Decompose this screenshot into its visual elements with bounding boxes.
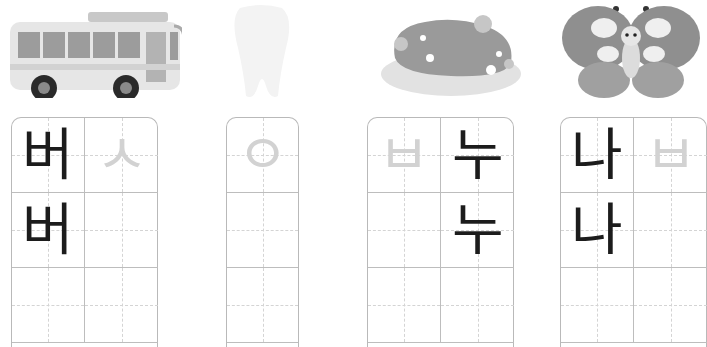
grid-cell[interactable] [368, 268, 441, 343]
syllable-trace: ㅂ [368, 118, 440, 192]
writing-grid-tooth: ㅇ [226, 117, 299, 347]
syllable-trace: ㅇ [227, 118, 298, 192]
grid-cell[interactable] [85, 193, 158, 268]
grid-cell[interactable]: ㅇ [227, 118, 298, 193]
grid-cell[interactable]: ㅂ [634, 118, 707, 193]
grid-cell[interactable] [227, 193, 298, 268]
writing-grid-island: ㅂ 누 누 [367, 117, 514, 347]
grid-cell[interactable]: 누 [441, 193, 514, 268]
bus-icon [4, 8, 182, 98]
grid-cell[interactable]: 버 [12, 193, 85, 268]
grid-cell[interactable]: 나 [561, 118, 634, 193]
grid-cell[interactable]: 나 [561, 193, 634, 268]
grid-cell[interactable]: 버 [12, 118, 85, 193]
butterfly-icon [560, 2, 702, 102]
grid-cell[interactable] [85, 268, 158, 343]
grid-cell[interactable]: ㅂ [368, 118, 441, 193]
island-icon [375, 8, 527, 100]
grid-cell[interactable] [368, 193, 441, 268]
syllable-solid: 누 [441, 118, 514, 192]
syllable-solid: 나 [561, 118, 633, 192]
grid-cell[interactable] [634, 193, 707, 268]
grid-cell[interactable] [441, 268, 514, 343]
grid-cell[interactable] [12, 268, 85, 343]
syllable-solid: 나 [561, 193, 633, 267]
grid-cell[interactable]: ㅅ [85, 118, 158, 193]
syllable-solid: 버 [12, 193, 84, 267]
syllable-trace: ㅂ [634, 118, 707, 192]
tooth-icon [226, 2, 296, 100]
syllable-solid: 버 [12, 118, 84, 192]
writing-grid-butterfly: 나 ㅂ 나 [560, 117, 707, 347]
syllable-trace: ㅅ [85, 118, 158, 192]
writing-grid-bus: 버 ㅅ 버 [11, 117, 158, 347]
grid-cell[interactable] [227, 268, 298, 343]
syllable-solid: 누 [441, 193, 514, 267]
grid-cell[interactable] [561, 268, 634, 343]
grid-cell[interactable]: 누 [441, 118, 514, 193]
grid-cell[interactable] [634, 268, 707, 343]
